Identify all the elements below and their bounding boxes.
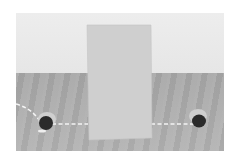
rendered-scene bbox=[16, 13, 224, 151]
left-hole bbox=[38, 112, 56, 133]
scene-objects bbox=[16, 13, 224, 151]
standing-panel bbox=[87, 25, 152, 140]
